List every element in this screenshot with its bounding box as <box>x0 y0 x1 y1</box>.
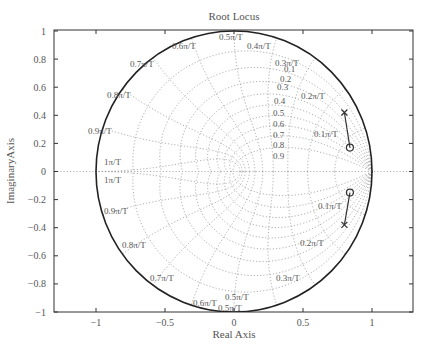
x-tick-label: −0.5 <box>156 317 174 328</box>
x-tick-label: 0 <box>232 317 237 328</box>
plot-area <box>54 30 413 312</box>
frequency-label: 0.2π/T <box>300 238 324 248</box>
frequency-label: 0.8π/T <box>107 90 131 100</box>
frequency-label: 0.7π/T <box>150 273 174 283</box>
damping-label: 0.9 <box>273 151 285 161</box>
x-axis-label: Real Axis <box>212 328 255 340</box>
chart-title: Root Locus <box>208 10 259 22</box>
frequency-label: 0.5π/T <box>225 292 249 302</box>
root-locus-chart: Root Locus 0.1π/T0.2π/T0.3π/T0.4π/T0.5π/… <box>0 0 428 358</box>
y-axis-label: ImaginaryAxis <box>4 138 16 204</box>
damping-label: 0.1 <box>284 64 295 74</box>
frequency-label: 0.4π/T <box>247 41 271 51</box>
frequency-label: 0.2π/T <box>301 91 325 101</box>
damping-label: 0.7 <box>273 130 285 140</box>
frequency-label: 0.6π/T <box>193 298 217 308</box>
damping-label: 0.6 <box>273 119 285 129</box>
damping-label: 0.3 <box>277 82 289 92</box>
y-tick-label: 0.2 <box>34 138 47 149</box>
frequency-label: 0.5π/T <box>219 32 243 42</box>
frequency-label: 0.9π/T <box>104 206 128 216</box>
damping-label: 0.4 <box>274 96 286 106</box>
x-tick-label: −1 <box>91 317 102 328</box>
y-tick-label: 1 <box>41 26 46 37</box>
y-tick-label: −0.6 <box>28 250 46 261</box>
y-tick-label: −0.2 <box>28 194 46 205</box>
damping-label: 0.8 <box>273 140 285 150</box>
frequency-label: 0.5π/T <box>218 303 242 313</box>
frequency-label: 0.3π/T <box>276 273 300 283</box>
y-tick-label: −0.8 <box>28 278 46 289</box>
x-tick-label: 1 <box>370 317 375 328</box>
frequency-label: 0.7π/T <box>130 59 154 69</box>
frequency-label: 0.1π/T <box>318 201 342 211</box>
y-tick-label: 0 <box>41 166 46 177</box>
frequency-label: 0.9π/T <box>88 126 112 136</box>
damping-label: 0.5 <box>273 108 285 118</box>
frequency-label: 0.6π/T <box>172 41 196 51</box>
frequency-label: 1π/T <box>104 157 122 167</box>
y-tick-label: −1 <box>35 307 46 318</box>
y-tick-label: 0.4 <box>34 110 47 121</box>
frequency-label: 0.8π/T <box>122 240 146 250</box>
frequency-label: 0.1π/T <box>314 129 338 139</box>
y-tick-label: 0.8 <box>34 54 47 65</box>
x-tick-label: 0.5 <box>297 317 310 328</box>
frequency-label: 1π/T <box>104 175 122 185</box>
y-tick-label: −0.4 <box>28 222 46 233</box>
y-tick-label: 0.6 <box>34 82 47 93</box>
